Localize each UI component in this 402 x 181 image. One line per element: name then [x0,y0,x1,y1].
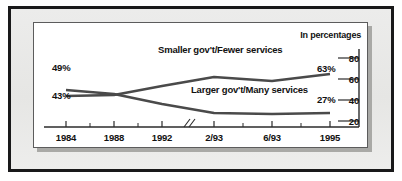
series-label-larger-government: Larger gov't/Many services [191,85,308,95]
data-label-larger-government-start: 49% [52,63,70,73]
y-tick-label-80: 80 [343,54,359,64]
unit-note: In percentages [300,31,361,40]
x-tick-label-feb-93: 2/93 [192,133,236,143]
y-tick-label-20: 20 [343,117,359,127]
x-tick-label-1984: 1984 [44,133,88,143]
x-tick-label-1995: 1995 [308,133,352,143]
chart-figure: In percentages 80 60 40 20 1984 1988 199… [0,0,402,181]
y-tick-label-40: 40 [343,96,359,106]
x-tick-label-jun-93: 6/93 [250,133,294,143]
axis-break-icon [184,119,195,127]
x-axis-ticks [66,121,330,127]
x-tick-label-1992: 1992 [140,133,184,143]
series-label-smaller-government: Smaller gov't/Fewer services [158,45,282,55]
data-label-smaller-government-end: 63% [317,64,335,74]
data-label-smaller-government-start: 43% [52,91,70,101]
y-tick-label-60: 60 [343,75,359,85]
y-axis-ticks [338,58,359,121]
x-tick-label-1988: 1988 [92,133,136,143]
data-label-larger-government-end: 27% [317,95,335,105]
plot-card: In percentages 80 60 40 20 1984 1988 199… [33,22,368,148]
